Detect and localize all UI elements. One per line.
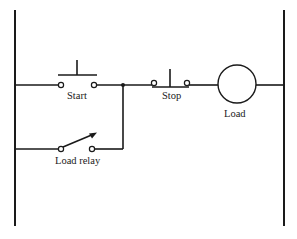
stop-terminal-right — [184, 80, 189, 85]
load-relay-contact: Load relay — [55, 133, 101, 167]
start-terminal-right — [91, 82, 96, 87]
stop-label: Stop — [162, 90, 181, 101]
ladder-diagram: Start Stop Load Load relay — [0, 0, 297, 239]
load-relay-switch-arm — [63, 134, 94, 147]
stop-pushbutton: Stop — [151, 69, 189, 101]
start-label: Start — [67, 90, 87, 101]
load-relay-terminal-left — [58, 146, 63, 151]
stop-terminal-left — [151, 80, 156, 85]
load-relay-terminal-right — [89, 146, 94, 151]
load-label: Load — [224, 108, 246, 119]
start-pushbutton: Start — [58, 60, 97, 101]
start-terminal-left — [58, 82, 63, 87]
load-coil-circle — [218, 65, 256, 103]
load-relay-label: Load relay — [55, 155, 101, 166]
load-coil: Load — [218, 65, 256, 119]
